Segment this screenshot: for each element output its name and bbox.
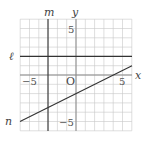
x-axis-label: x	[135, 69, 142, 82]
tick-x-pos5: 5	[119, 76, 125, 87]
origin-label: O	[66, 75, 75, 88]
tick-y-neg5: −5	[59, 117, 74, 128]
y-axis-label: y	[71, 6, 79, 19]
line-m-label: m	[44, 6, 54, 19]
line-n-label: n	[5, 115, 12, 128]
coordinate-plane: m y ℓ n x O −5 5 5 −5	[0, 0, 153, 141]
tick-x-neg5: −5	[22, 76, 37, 87]
line-l-label: ℓ	[9, 50, 14, 63]
tick-y-pos5: 5	[68, 24, 74, 35]
